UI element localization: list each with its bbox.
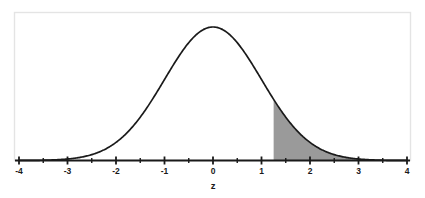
x-tick-label-pos3: 3 — [356, 166, 361, 176]
x-tick-label-neg4: -4 — [15, 166, 23, 176]
normal-distribution-chart: -4 -3 -2 -1 0 1 2 3 4 z — [0, 0, 425, 198]
normal-curve — [19, 27, 407, 160]
x-axis-title: z — [211, 180, 216, 191]
plot-area: -4 -3 -2 -1 0 1 2 3 4 z — [0, 0, 425, 198]
x-tick-label-pos4: 4 — [405, 166, 410, 176]
x-tick-label-pos2: 2 — [308, 166, 313, 176]
x-tick-label-neg3: -3 — [64, 166, 72, 176]
x-tick-label-zero: 0 — [211, 166, 216, 176]
shaded-tail-region — [274, 99, 407, 160]
x-tick-label-neg2: -2 — [112, 166, 120, 176]
x-tick-label-neg1: -1 — [161, 166, 169, 176]
x-tick-label-pos1: 1 — [259, 166, 264, 176]
plot-frame — [15, 13, 411, 161]
